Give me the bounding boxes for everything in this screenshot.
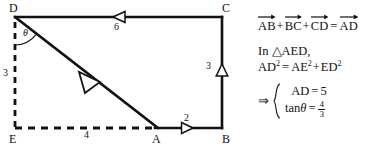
arrow-marker-AB [182, 123, 194, 134]
vector-BC: BC [285, 18, 302, 34]
angle-label-theta: θ [23, 27, 28, 38]
comma: , [307, 44, 310, 58]
pyth-t2-exp: 2 [338, 59, 342, 68]
vertex-label-B: B [222, 133, 230, 145]
equation-pythagoras: AD2=AE2+ED2 [258, 60, 390, 75]
vector-BC-text: BC [285, 19, 302, 33]
result-row-AD: AD=5 [285, 84, 327, 98]
vertex-label-E: E [9, 133, 16, 145]
result-AD-value: 5 [320, 84, 326, 98]
equals-3: = [309, 84, 320, 98]
vertex-label-D: D [9, 2, 18, 14]
triangle-name: AED [282, 44, 308, 58]
triangle-icon: △ [272, 44, 282, 58]
implies-icon: ⇒ [258, 93, 271, 109]
edge-length-CB: 3 [206, 61, 211, 71]
pyth-lhs: AD [258, 60, 276, 74]
edge-length-EA: 4 [84, 130, 89, 140]
edge-length-AB: 2 [184, 113, 189, 123]
vector-CD: CD [311, 18, 329, 34]
vertex-label-A: A [152, 133, 161, 145]
equation-results: ⇒ AD=5 tanθ=43 [258, 83, 390, 119]
equals-1: = [328, 19, 339, 33]
vector-CD-text: CD [311, 19, 329, 33]
vertex-label-C: C [222, 2, 230, 14]
geometry-diagram [0, 0, 246, 149]
result-AD-lhs: AD [291, 84, 309, 98]
pyth-t1: AE [291, 60, 308, 74]
vector-AD-text: AD [340, 19, 358, 33]
plus-2: + [302, 19, 311, 33]
equation-vector-sum: AB+BC+CD=AD [258, 18, 390, 34]
edge-length-DE: 3 [3, 68, 8, 78]
results-rows: AD=5 tanθ=43 [281, 83, 327, 119]
figure-root: D C B A E 6 3 2 3 4 θ AB+BC+CD=AD In △AE… [0, 0, 390, 149]
edge-length-DC: 6 [114, 22, 119, 32]
edge-DA [15, 17, 158, 128]
equation-block: AB+BC+CD=AD In △AED, AD2=AE2+ED2 ⇒ AD=5 … [258, 18, 390, 119]
plus-3: + [312, 60, 321, 74]
pyth-t2: ED [321, 60, 338, 74]
equals-2: = [280, 60, 291, 74]
result-row-tan-theta: tanθ=43 [285, 101, 326, 115]
equals-4: = [306, 101, 317, 115]
left-brace-icon [271, 83, 281, 119]
vector-AB: AB [258, 18, 276, 34]
arrow-marker-CB [216, 64, 228, 76]
plus-1: + [276, 19, 285, 33]
vector-AD: AD [340, 18, 358, 34]
vector-AB-text: AB [258, 19, 276, 33]
fraction-four-thirds: 43 [318, 100, 325, 120]
in-word: In [258, 44, 268, 58]
fraction-numerator: 4 [320, 100, 324, 109]
fraction-denominator: 3 [320, 110, 324, 119]
equation-triangle-intro: In △AED, [258, 43, 390, 59]
tan-prefix: tan [285, 101, 300, 115]
